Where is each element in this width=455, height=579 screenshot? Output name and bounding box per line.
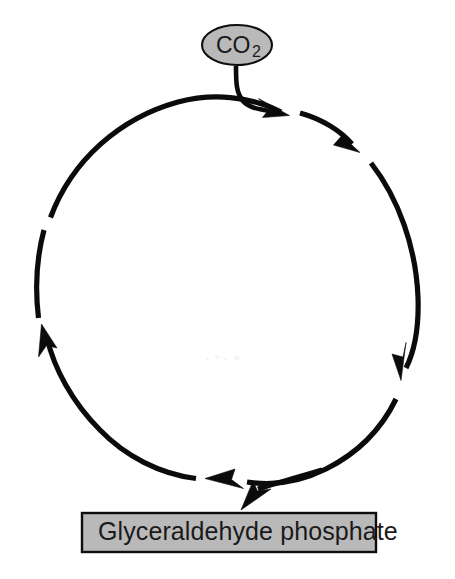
cycle-diagram-svg: CO 2 Glyceraldehyde phosphate [0, 0, 455, 579]
cycle-arc-top [51, 97, 282, 218]
glyceraldehyde-phosphate-label: Glyceraldehyde phosphate [98, 517, 398, 545]
cycle-segment-top [51, 97, 290, 218]
cycle-arc-bottom-to-left [47, 338, 196, 479]
glyceraldehyde-phosphate-node[interactable]: Glyceraldehyde phosphate [82, 513, 398, 552]
cycle-segment-left-upper [37, 230, 44, 318]
cycle-segment-upper-right [300, 113, 360, 153]
cycle-segment-right [371, 163, 418, 381]
arrowhead-bottom-left-icon [205, 469, 244, 489]
glyceraldehyde-output-connector [241, 470, 322, 510]
cycle-arc-right [371, 163, 418, 368]
output-branch-line [258, 470, 322, 489]
co2-node[interactable]: CO 2 [202, 25, 272, 65]
diagram-canvas: CO 2 Glyceraldehyde phosphate [0, 0, 455, 579]
cycle-segment-bottom-left [39, 324, 397, 489]
cycle-arc-left-upper [37, 230, 44, 318]
arrowhead-lower-right-icon [392, 343, 406, 381]
arrowhead-upper-right-icon [331, 126, 360, 153]
arrowhead-left-icon [39, 324, 58, 357]
co2-node-label-subscript: 2 [252, 43, 261, 60]
co2-node-label: CO [216, 32, 251, 58]
